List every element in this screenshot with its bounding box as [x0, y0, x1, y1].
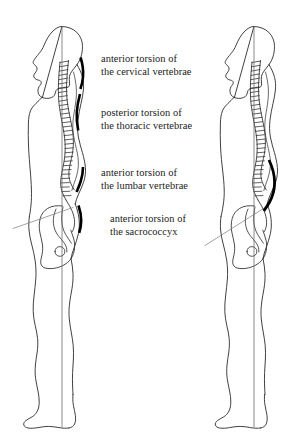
- left-torso-anterior-outline: [28, 97, 42, 216]
- right-foot-outline: [261, 395, 268, 429]
- right-obturator-foramen: [247, 247, 257, 257]
- left-leg-posterior-outline: [69, 259, 74, 395]
- left-foot-outline: [69, 395, 76, 429]
- right-pelvis-inner-arc: [254, 207, 264, 243]
- right-body-lateral-view: [205, 27, 278, 429]
- right-leg-posterior-outline: [261, 259, 266, 395]
- right-sacrum-outline: [258, 200, 267, 232]
- left-pelvis-ilium: [39, 206, 74, 269]
- left-pelvis-inner-arc: [62, 207, 72, 243]
- right-pelvis-ilium: [231, 206, 266, 269]
- left-vertebrae-segments: [59, 61, 74, 196]
- left-pelvis-secondary-loop: [53, 209, 67, 252]
- anatomy-illustration: [0, 0, 301, 447]
- left-face-profile: [33, 27, 61, 98]
- right-vertebrae-segments: [251, 61, 266, 196]
- left-pelvis-leader-line: [13, 208, 73, 229]
- anatomy-figure-container: anterior torsion of the cervical vertebr…: [0, 0, 301, 447]
- left-obturator-foramen: [55, 247, 65, 257]
- left-body-lateral-view: [13, 27, 86, 429]
- right-torso-anterior-outline: [220, 97, 234, 216]
- right-face-profile: [225, 27, 253, 98]
- left-sacrum-outline: [66, 200, 75, 232]
